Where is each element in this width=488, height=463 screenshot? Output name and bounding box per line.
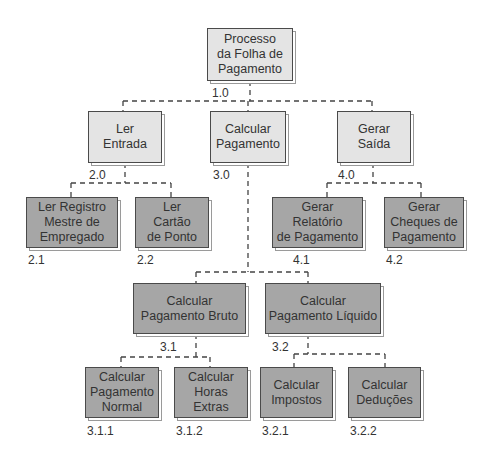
node-number: 2.1	[28, 253, 45, 267]
node-number: 3.1.2	[176, 424, 203, 438]
node-number: 3.1.1	[87, 424, 114, 438]
node-label: Processo da Folha de Pagamento	[207, 28, 293, 81]
node-3-2: Calcular Pagamento Líquido	[265, 283, 381, 334]
node-number: 2.2	[137, 253, 154, 267]
node-2-2: Ler Cartão de Ponto	[135, 197, 209, 248]
node-number: 3.0	[213, 168, 230, 182]
node-4-1: Gerar Relatório de Pagamento	[272, 197, 363, 248]
node-label: Ler Cartão de Ponto	[135, 197, 209, 248]
node-label: Calcular Pagamento Líquido	[265, 283, 381, 334]
node-number: 3.2.1	[262, 424, 289, 438]
node-3-2-2: Calcular Deduções	[348, 367, 421, 418]
node-label: Gerar Cheques de Pagamento	[384, 197, 464, 248]
node-label: Ler Registro Mestre de Empregado	[26, 197, 118, 248]
node-number: 4.0	[338, 168, 355, 182]
node-label: Calcular Impostos	[260, 367, 333, 418]
node-label: Calcular Deduções	[348, 367, 421, 418]
node-label: Calcular Pagamento Bruto	[133, 283, 246, 334]
node-3-1-1: Calcular Pagamento Normal	[85, 367, 159, 418]
node-number: 1.0	[212, 86, 229, 100]
node-2-1: Ler Registro Mestre de Empregado	[26, 197, 118, 248]
node-label: Gerar Saída	[337, 111, 411, 163]
node-3-1: Calcular Pagamento Bruto	[133, 283, 246, 334]
node-4-2: Gerar Cheques de Pagamento	[384, 197, 464, 248]
node-2-0: Ler Entrada	[88, 111, 162, 163]
node-label: Calcular Pagamento	[210, 111, 286, 163]
node-number: 3.2.2	[350, 424, 377, 438]
node-3-0: Calcular Pagamento	[210, 111, 286, 163]
node-number: 2.0	[89, 168, 106, 182]
node-4-0: Gerar Saída	[337, 111, 411, 163]
node-number: 3.2	[272, 340, 289, 354]
node-number: 4.2	[386, 253, 403, 267]
node-number: 4.1	[293, 253, 310, 267]
node-3-1-2: Calcular Horas Extras	[174, 367, 248, 418]
node-label: Calcular Pagamento Normal	[85, 367, 159, 418]
node-label: Gerar Relatório de Pagamento	[272, 197, 363, 248]
node-label: Ler Entrada	[88, 111, 162, 163]
node-label: Calcular Horas Extras	[174, 367, 248, 418]
node-number: 3.1	[160, 340, 177, 354]
node-3-2-1: Calcular Impostos	[260, 367, 333, 418]
node-1-0: Processo da Folha de Pagamento	[207, 28, 293, 81]
